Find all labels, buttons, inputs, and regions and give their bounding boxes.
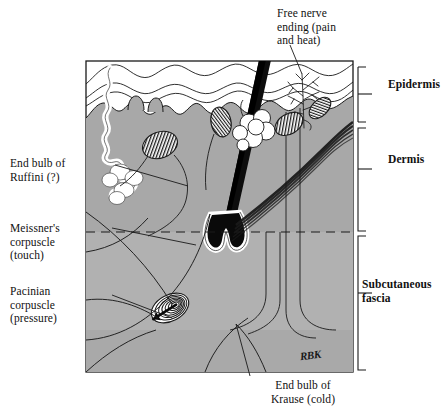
label-pacinian: Pacinian corpuscle (pressure) <box>10 285 110 326</box>
label-free-nerve-ending: Free nerve ending (pain and heat) <box>277 7 373 48</box>
label-dermis: Dermis <box>388 153 448 167</box>
label-meissner: Meissner's corpuscle (touch) <box>10 222 110 263</box>
label-epidermis: Epidermis <box>388 78 448 92</box>
skin-cross-section-figure <box>0 0 448 418</box>
bracket-dermis <box>358 128 366 231</box>
label-subcutaneous-fascia: Subcutaneous fascia <box>362 278 448 305</box>
label-krause: End bulb of Krause (cold) <box>243 379 363 406</box>
artist-signature: RBK <box>299 348 321 362</box>
layer-brackets <box>358 67 372 370</box>
label-ruffini: End bulb of Ruffini (?) <box>10 157 115 184</box>
